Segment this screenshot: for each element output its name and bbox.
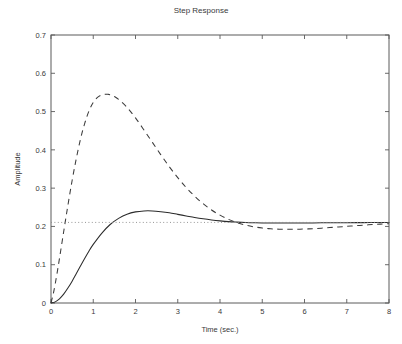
x-axis-title: Time (sec.) <box>201 325 239 334</box>
x-tick-label: 4 <box>218 307 222 316</box>
step-response-chart: Step Response 00.10.20.30.40.50.60.7 012… <box>0 0 402 344</box>
y-tick-label: 0.4 <box>36 146 46 155</box>
y-tick-label: 0.2 <box>36 222 46 231</box>
y-tick-label: 0.5 <box>36 107 46 116</box>
y-tick-label: 0.3 <box>36 184 46 193</box>
x-tick-label: 8 <box>387 307 391 316</box>
x-tick-label: 1 <box>91 307 95 316</box>
chart-background <box>0 0 402 344</box>
x-tick-label: 5 <box>260 307 264 316</box>
y-axis-title: Amplitude <box>13 152 22 185</box>
x-tick-label: 2 <box>133 307 137 316</box>
chart-title: Step Response <box>174 6 229 15</box>
x-tick-label: 0 <box>49 307 53 316</box>
y-tick-label: 0.6 <box>36 69 46 78</box>
x-tick-label: 3 <box>176 307 180 316</box>
x-tick-label: 6 <box>302 307 306 316</box>
x-tick-label: 7 <box>345 307 349 316</box>
y-tick-label: 0.1 <box>36 260 46 269</box>
y-tick-label: 0 <box>42 299 46 308</box>
y-tick-label: 0.7 <box>36 31 46 40</box>
